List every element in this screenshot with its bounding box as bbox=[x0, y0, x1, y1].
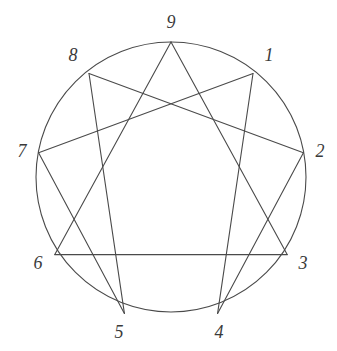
inner-hexad-layer bbox=[39, 74, 304, 314]
enneagram-canvas: 123456789 bbox=[0, 0, 337, 351]
point-label-8: 8 bbox=[69, 45, 78, 65]
point-label-1: 1 bbox=[265, 45, 274, 65]
triangle-edge-9-3 bbox=[171, 42, 287, 255]
hexad-edge-1-4 bbox=[218, 74, 253, 314]
outer-circle-layer bbox=[36, 42, 306, 312]
enneagram-figure: 123456789 bbox=[0, 0, 337, 351]
point-label-6: 6 bbox=[34, 253, 43, 273]
outer-circle bbox=[36, 42, 306, 312]
point-label-3: 3 bbox=[298, 253, 308, 273]
hexad-edge-8-5 bbox=[89, 74, 124, 314]
hexad-edge-5-7 bbox=[39, 153, 125, 314]
point-label-layer: 123456789 bbox=[18, 12, 325, 342]
triangle-edge-6-9 bbox=[55, 42, 171, 255]
point-label-7: 7 bbox=[18, 141, 28, 161]
hexad-edge-4-2 bbox=[218, 153, 304, 314]
point-label-2: 2 bbox=[316, 141, 325, 161]
hexad-edge-7-1 bbox=[39, 74, 253, 153]
hexad-edge-2-8 bbox=[89, 74, 303, 153]
point-label-5: 5 bbox=[115, 322, 124, 342]
point-label-4: 4 bbox=[215, 322, 224, 342]
point-label-9: 9 bbox=[167, 12, 176, 32]
